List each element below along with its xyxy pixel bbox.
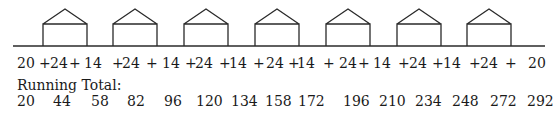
plus-sign: + bbox=[358, 56, 370, 70]
running-total-value: 44 bbox=[53, 94, 71, 108]
house-icon bbox=[397, 9, 441, 46]
running-total-value: 172 bbox=[298, 94, 325, 108]
sum-term: 20 bbox=[17, 56, 35, 70]
house-icon bbox=[326, 9, 370, 46]
sum-term: 24 bbox=[339, 56, 357, 70]
running-total-value: 292 bbox=[527, 94, 554, 108]
plus-sign: + bbox=[146, 56, 158, 70]
sum-term: 24 bbox=[122, 56, 140, 70]
sum-term: 14 bbox=[297, 56, 315, 70]
sum-term: 24 bbox=[409, 56, 427, 70]
sum-term: 24 bbox=[50, 56, 68, 70]
running-total-value: 234 bbox=[415, 94, 442, 108]
sum-term: 24 bbox=[266, 56, 284, 70]
running-total-value: 134 bbox=[231, 94, 258, 108]
sum-term: 14 bbox=[443, 56, 461, 70]
house-icon bbox=[255, 9, 299, 46]
running-total-value: 210 bbox=[379, 94, 406, 108]
house-icon bbox=[43, 9, 87, 46]
running-total-value: 58 bbox=[91, 94, 109, 108]
sum-term: 20 bbox=[528, 56, 546, 70]
running-total-value: 120 bbox=[196, 94, 223, 108]
running-total-label: Running Total: bbox=[17, 78, 121, 92]
sum-term: 24 bbox=[195, 56, 213, 70]
plus-sign: + bbox=[505, 56, 517, 70]
sum-term: 24 bbox=[480, 56, 498, 70]
plus-sign: + bbox=[39, 56, 51, 70]
plus-sign: + bbox=[323, 56, 335, 70]
running-total-value: 82 bbox=[127, 94, 145, 108]
plus-sign: + bbox=[469, 56, 481, 70]
sum-term: 14 bbox=[162, 56, 180, 70]
plus-sign: + bbox=[69, 56, 81, 70]
running-total-value: 248 bbox=[452, 94, 479, 108]
houses-diagram bbox=[0, 0, 550, 50]
plus-sign: + bbox=[432, 56, 444, 70]
plus-sign: + bbox=[253, 56, 265, 70]
sum-term: 14 bbox=[229, 56, 247, 70]
sum-term: 14 bbox=[84, 56, 102, 70]
running-total-value: 272 bbox=[490, 94, 517, 108]
running-total-value: 96 bbox=[164, 94, 182, 108]
house-icon bbox=[467, 9, 511, 46]
house-icon bbox=[113, 9, 157, 46]
sum-term: 14 bbox=[373, 56, 391, 70]
running-total-value: 20 bbox=[17, 94, 35, 108]
plus-sign: + bbox=[398, 56, 410, 70]
running-total-value: 158 bbox=[265, 94, 292, 108]
house-icon bbox=[184, 9, 228, 46]
running-total-value: 196 bbox=[343, 94, 370, 108]
